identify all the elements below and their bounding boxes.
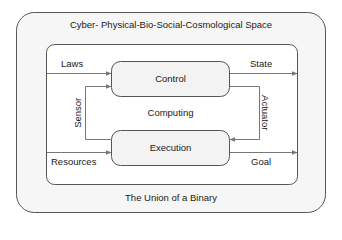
computing-label: Computing (111, 108, 230, 118)
bottom-label: The Union of a Binary (0, 193, 342, 203)
sensor-label: Sensor (73, 93, 83, 133)
outer-title: Cyber- Physical-Bio-Social-Cosmological … (0, 20, 342, 30)
execution-label: Execution (111, 143, 230, 153)
control-label: Control (111, 74, 230, 84)
actuator-label: Actuator (260, 91, 270, 135)
resources-label: Resources (51, 157, 96, 167)
state-label: State (250, 59, 272, 69)
goal-label: Goal (251, 157, 271, 167)
laws-label: Laws (61, 59, 83, 69)
